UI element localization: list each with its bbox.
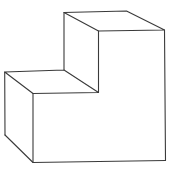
- stepped-block-figure: [0, 0, 172, 169]
- drawing-canvas: [0, 0, 172, 169]
- front-face: [33, 30, 166, 163]
